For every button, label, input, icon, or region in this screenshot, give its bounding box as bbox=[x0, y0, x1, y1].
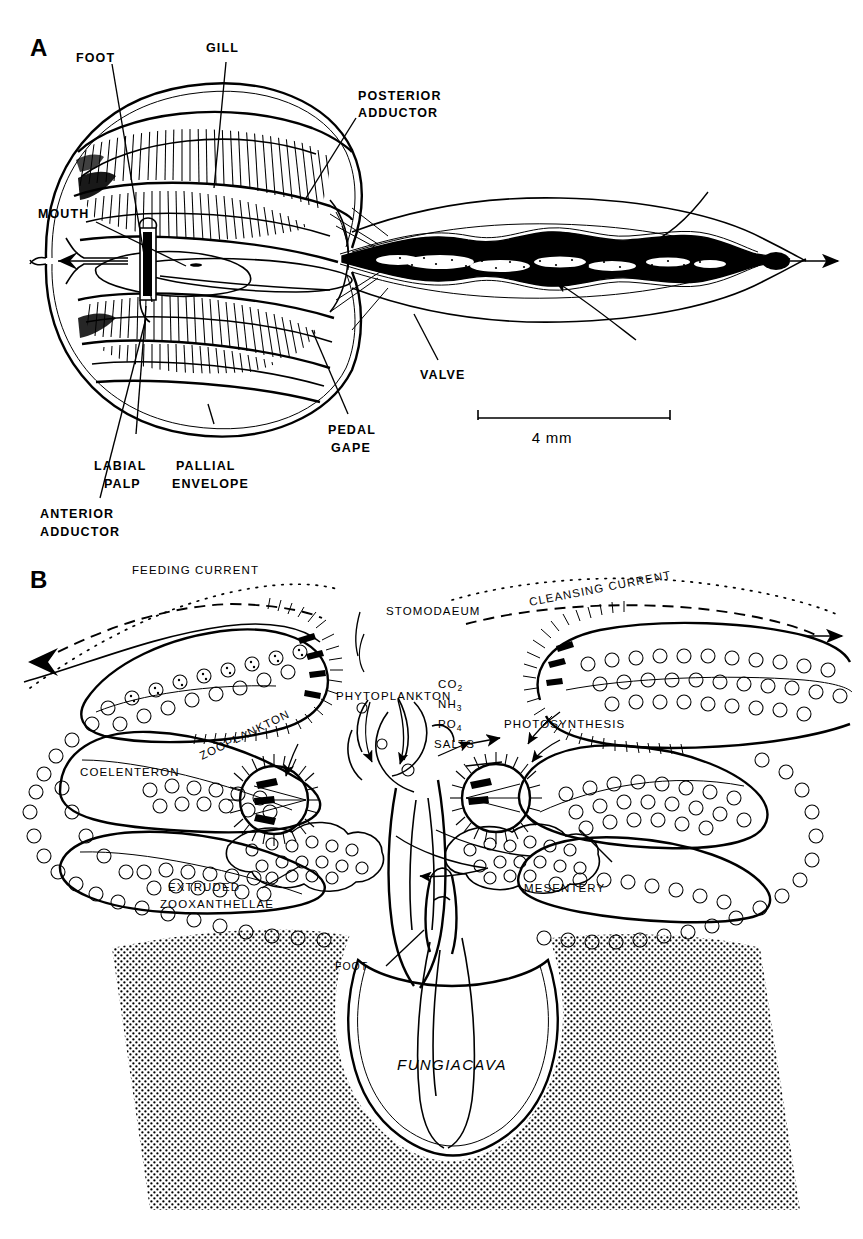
nutrient-salts: SALTS bbox=[434, 738, 475, 750]
label-anterior-adductor-line1: ANTERIOR bbox=[40, 507, 114, 521]
scale-bar-label: 4 mm bbox=[532, 429, 573, 446]
label-fungiacava: FUNGIACAVA bbox=[397, 1056, 507, 1073]
figure-container: A bbox=[0, 0, 863, 1239]
label-anterior-adductor-line2: ADDUCTOR bbox=[40, 525, 120, 539]
panel-a-letter: A bbox=[30, 34, 47, 61]
label-posterior-adductor-line1: POSTERIOR bbox=[358, 89, 442, 103]
label-stomodaeum: STOMODAEUM bbox=[386, 605, 481, 617]
label-labial-palp-line1: LABIAL bbox=[94, 459, 146, 473]
label-mouth: MOUTH bbox=[38, 207, 89, 221]
label-labial-palp-line2: PALP bbox=[104, 477, 141, 491]
panel-b-letter: B bbox=[30, 566, 47, 593]
label-feeding-current: FEEDING CURRENT bbox=[132, 564, 259, 576]
label-phytoplankton: PHYTOPLANKTON bbox=[336, 690, 452, 702]
label-extruded-zooxanthellae-line2: ZOOXANTHELLAE bbox=[160, 898, 274, 910]
label-pallial-envelope-line1: PALLIAL bbox=[176, 459, 236, 473]
label-photosynthesis: PHOTOSYNTHESIS bbox=[504, 718, 625, 730]
label-extruded-zooxanthellae-line1: EXTRUDED bbox=[168, 881, 240, 893]
label-coelenteron: COELENTERON bbox=[80, 766, 180, 778]
label-pallial-envelope-line2: ENVELOPE bbox=[172, 477, 249, 491]
label-posterior-adductor-line2: ADDUCTOR bbox=[358, 106, 438, 120]
label-mesentery: MESENTERY bbox=[524, 882, 605, 894]
label-pedal-gape-line1: PEDAL bbox=[328, 423, 376, 437]
label-gill: GILL bbox=[206, 41, 239, 55]
scientific-figure: A bbox=[0, 0, 863, 1239]
label-valve: VALVE bbox=[420, 368, 465, 382]
label-foot-b: FOOT bbox=[335, 960, 368, 972]
label-foot: FOOT bbox=[76, 51, 115, 65]
label-pedal-gape-line2: GAPE bbox=[331, 441, 371, 455]
